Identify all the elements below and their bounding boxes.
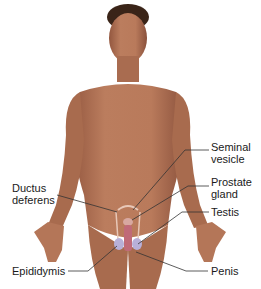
penis-shape xyxy=(124,225,132,251)
prostate-shape xyxy=(123,218,133,226)
anatomy-diagram: Seminal vesicle Prostate gland Testis Du… xyxy=(0,0,261,289)
label-penis: Penis xyxy=(211,265,239,277)
right-arm-shape xyxy=(172,92,208,228)
label-seminal-vesicle: Seminal vesicle xyxy=(211,141,251,165)
left-hand-shape xyxy=(34,222,64,262)
head-shape xyxy=(109,13,147,63)
right-hand-shape xyxy=(196,222,226,262)
label-testis: Testis xyxy=(211,206,239,218)
label-ductus-deferens: Ductus deferens xyxy=(12,182,55,206)
label-prostate-gland: Prostate gland xyxy=(211,176,252,200)
left-testis-shape xyxy=(114,238,124,250)
left-arm-shape xyxy=(48,92,84,228)
right-testis-shape xyxy=(132,238,142,250)
torso-shape xyxy=(70,84,186,238)
label-epididymis: Epididymis xyxy=(12,265,65,277)
